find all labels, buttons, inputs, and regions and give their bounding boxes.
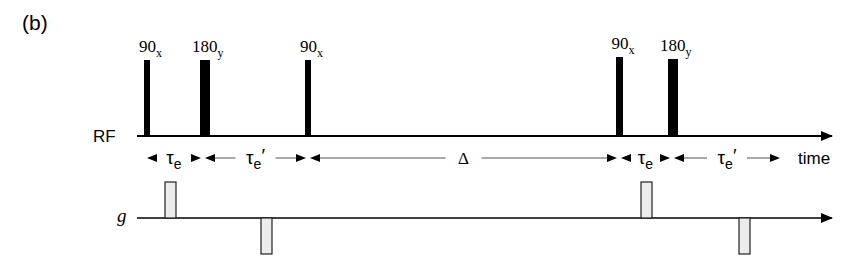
rf-pulse-labels: 90x180y90x90x180y [139,34,692,60]
interval-arrowhead-right [770,154,780,162]
rf-pulse-label: 180y [192,37,224,60]
interval-arrowhead-left [621,154,631,162]
rf-pulse-180 [668,59,678,136]
interval-label: τe [638,147,654,172]
timing-interval: Δ [310,149,617,168]
rf-pulse-90 [616,57,623,136]
time-axis-label: time [798,149,830,168]
timing-interval: τe′ [674,145,780,172]
rf-pulse-label: 180y [660,36,692,59]
gradient-lobe-positive [641,182,652,218]
gradient-lobe-negative [261,218,272,254]
interval-label: Δ [458,149,469,168]
interval-arrowhead-left [147,154,157,162]
rf-pulse-180 [200,60,210,136]
interval-arrowhead-right [296,154,306,162]
rf-pulse-label: 90x [300,37,323,60]
gradient-lobe-positive [165,182,176,218]
rf-pulse-90 [305,60,311,136]
interval-label: τe′ [718,145,737,172]
interval-label: τe [166,147,182,172]
gradient-axis-label: g [117,205,127,226]
rf-axis-label: RF [93,127,116,146]
interval-arrowhead-left [674,154,684,162]
interval-arrowhead-right [660,154,670,162]
interval-arrowhead-right [607,154,617,162]
rf-pulse-label: 90x [139,37,162,60]
timing-interval: τe′ [205,145,306,172]
rf-pulses [144,57,678,136]
rf-pulse-label: 90x [612,34,635,57]
interval-arrowhead-left [205,154,215,162]
timing-interval: τe [621,147,670,172]
gradient-lobe-negative [739,218,750,254]
timing-interval: τe [147,147,201,172]
timing-intervals: τeτe′Δτeτe′ [147,145,780,172]
interval-label: τe′ [246,145,265,172]
rf-pulse-90 [144,60,150,136]
panel-label: (b) [22,11,48,34]
pulse-sequence-diagram: (b) RF 90x180y90x90x180y τeτe′Δτeτe′ tim… [0,0,862,272]
interval-arrowhead-left [310,154,320,162]
interval-arrowhead-right [191,154,201,162]
